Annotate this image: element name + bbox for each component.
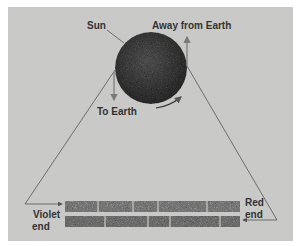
red-end-label-line2: end (245, 209, 263, 220)
red-end-label-line1: Red (245, 197, 264, 208)
away-from-earth-label: Away from Earth (152, 20, 231, 31)
to-earth-label: To Earth (97, 106, 137, 117)
sun-label: Sun (87, 20, 106, 31)
sun-sphere (115, 32, 187, 104)
spectrum-top (65, 201, 240, 212)
violet-end-label-line2: end (32, 221, 50, 232)
sun-label-leader (107, 30, 124, 43)
spectrum-bottom (65, 216, 240, 227)
left-ray-line (25, 70, 115, 204)
violet-end-label-line1: Violet (33, 209, 60, 220)
